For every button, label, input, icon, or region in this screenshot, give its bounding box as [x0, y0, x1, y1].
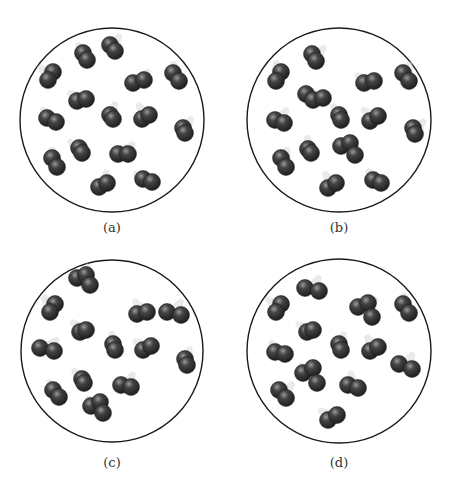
panel-label-c: (c) [82, 455, 142, 471]
atom [308, 53, 325, 70]
molecule [365, 168, 390, 192]
atom [51, 389, 68, 406]
atom [364, 309, 381, 326]
atom [309, 375, 326, 392]
figure: (a) (b) (c) (d) [0, 0, 452, 494]
molecule [71, 367, 93, 391]
atom [370, 108, 387, 125]
atom [328, 175, 345, 192]
atom [401, 305, 418, 322]
molecule [67, 138, 91, 161]
panel-b [247, 28, 431, 212]
molecule [66, 90, 94, 109]
molecule [132, 338, 160, 359]
atom [404, 361, 421, 378]
molecule [159, 298, 190, 323]
molecule [300, 135, 320, 162]
molecule [405, 118, 427, 142]
molecule-diagram [0, 0, 452, 494]
molecule [317, 407, 345, 429]
atom [278, 159, 295, 176]
atom [76, 375, 93, 392]
atom [333, 112, 350, 129]
atom [123, 379, 140, 396]
molecule [132, 171, 160, 191]
molecule [105, 331, 124, 359]
atom [179, 357, 196, 374]
molecule [295, 360, 326, 392]
molecule [129, 298, 156, 323]
atom [305, 322, 322, 339]
atom [401, 73, 418, 90]
atom [144, 174, 161, 191]
molecule [267, 106, 293, 131]
panel-label-d: (d) [309, 455, 369, 471]
molecule [273, 146, 295, 175]
molecule [39, 106, 65, 130]
atom [99, 175, 116, 192]
molecule [113, 371, 140, 396]
molecule [91, 169, 116, 196]
molecule [271, 381, 296, 406]
molecule [175, 115, 194, 141]
molecule [102, 33, 124, 60]
molecule [391, 351, 421, 377]
molecule [40, 294, 63, 320]
atom [49, 159, 66, 176]
atom [120, 146, 137, 163]
panel-d [247, 259, 431, 443]
atom [136, 72, 153, 89]
molecule [354, 72, 383, 91]
atom [74, 145, 91, 162]
atom [276, 115, 293, 132]
molecule [125, 69, 153, 92]
molecule [340, 370, 367, 396]
atom [268, 73, 285, 90]
molecule [69, 263, 99, 293]
panel-c [21, 260, 203, 442]
atom [311, 283, 328, 300]
panel-label-a: (a) [82, 220, 142, 236]
atom [40, 72, 57, 89]
atom [347, 147, 364, 164]
molecule [320, 170, 345, 196]
atom [78, 322, 95, 339]
atom [42, 304, 59, 321]
molecule [350, 295, 381, 326]
atom [79, 52, 96, 69]
atom [373, 175, 390, 192]
molecule [297, 274, 328, 299]
atom [315, 90, 332, 107]
molecule [177, 346, 196, 374]
atom [278, 390, 295, 407]
atom [143, 338, 160, 355]
atom [329, 407, 346, 424]
molecule [37, 64, 62, 89]
atom [303, 145, 320, 162]
molecule [32, 337, 63, 360]
molecule [360, 106, 386, 129]
atom [171, 73, 188, 90]
atom [46, 343, 63, 360]
atom [95, 405, 112, 422]
atom [105, 111, 122, 128]
molecule [110, 141, 137, 162]
molecule [298, 84, 332, 109]
atom [277, 346, 294, 363]
atom [82, 277, 99, 294]
atom [366, 73, 383, 90]
atom [333, 342, 350, 359]
atom [141, 107, 158, 124]
molecule [69, 319, 94, 341]
panel-label-b: (b) [309, 220, 369, 236]
molecule [45, 378, 68, 405]
panel-a [20, 28, 204, 212]
atom [350, 380, 367, 397]
molecule [134, 102, 158, 128]
atom [48, 114, 65, 131]
molecule [165, 61, 188, 90]
molecule [83, 394, 112, 422]
atom [107, 342, 124, 359]
molecule [330, 102, 349, 128]
atom [305, 360, 322, 377]
